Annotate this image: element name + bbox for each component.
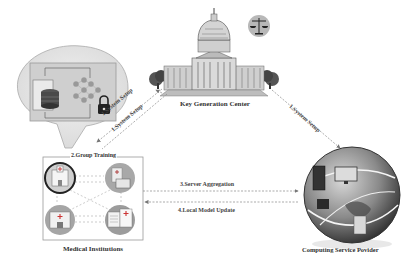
training-detail-bubble — [17, 46, 128, 148]
diagram-canvas — [0, 0, 406, 265]
csp-label: Computing Service Povider — [302, 246, 379, 253]
medical-institutions-label: Medical Institutions — [63, 245, 123, 253]
edge-label-server-aggregation: 3.Server Aggregation — [180, 181, 234, 187]
globe-network-icon — [304, 147, 400, 249]
medical-institutions-group — [43, 157, 143, 240]
justice-scale-icon — [248, 15, 270, 37]
clinic-icon — [105, 163, 135, 193]
kgc-label: Key Generation Center — [180, 100, 250, 108]
hospital-icon — [45, 163, 75, 193]
hospital-building-icon — [45, 205, 75, 235]
edge-label-local-model-update: 4.Local Model Update — [178, 207, 235, 213]
medical-record-icon — [105, 205, 135, 235]
group-training-label: 2.Group Training — [70, 152, 117, 158]
